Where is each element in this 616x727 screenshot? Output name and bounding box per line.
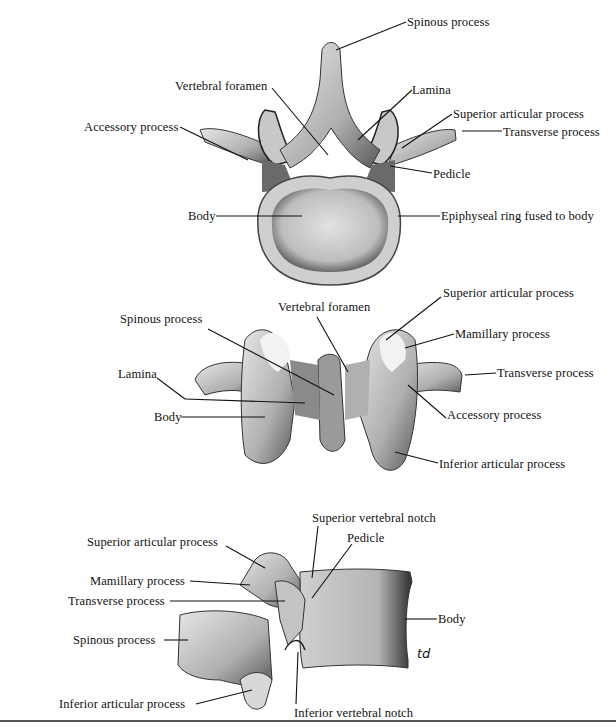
label-vertebral-foramen: Vertebral foramen [175, 79, 267, 93]
label-body-2: Body [154, 410, 182, 424]
label-transverse-process-2: Transverse process [497, 366, 594, 380]
lumbar-vertebra-figure: Spinous process Vertebral foramen Lamina… [0, 0, 616, 727]
lateral-view-drawing [178, 553, 412, 709]
label-transverse-process: Transverse process [503, 125, 600, 139]
label-superior-articular-process: Superior articular process [453, 107, 584, 121]
label-pedicle: Pedicle [433, 167, 471, 181]
label-superior-vertebral-notch: Superior vertebral notch [312, 511, 436, 525]
artist-signature: td [417, 646, 430, 661]
label-superior-articular-process-2: Superior articular process [443, 286, 574, 300]
label-lamina-2: Lamina [118, 367, 157, 381]
label-inferior-vertebral-notch: Inferior vertebral notch [294, 706, 413, 720]
label-superior-articular-process-3: Superior articular process [87, 535, 218, 549]
bottom-divider [0, 720, 616, 722]
posterior-view-drawing [195, 330, 462, 471]
label-vertebral-foramen-2: Vertebral foramen [278, 300, 370, 314]
label-body: Body [188, 209, 216, 223]
label-body-3: Body [438, 612, 466, 626]
label-mamillary-process: Mamillary process [455, 327, 550, 341]
label-inferior-articular-process: Inferior articular process [439, 457, 565, 471]
label-spinous-process-3: Spinous process [73, 633, 155, 647]
label-mamillary-process-3: Mamillary process [90, 574, 185, 588]
label-accessory-process: Accessory process [84, 120, 178, 134]
label-lamina: Lamina [412, 83, 451, 97]
label-spinous-process-2: Spinous process [120, 312, 202, 326]
label-spinous-process: Spinous process [407, 15, 489, 29]
label-transverse-process-3: Transverse process [68, 594, 165, 608]
label-accessory-process-2: Accessory process [447, 408, 541, 422]
label-epiphyseal-ring: Epiphyseal ring fused to body [441, 209, 594, 223]
label-inferior-articular-process-3: Inferior articular process [59, 697, 185, 711]
label-pedicle-3: Pedicle [347, 531, 385, 545]
